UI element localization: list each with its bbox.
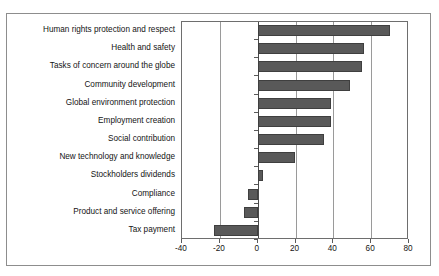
category-label: Tax payment	[129, 221, 175, 239]
category-label: Compliance	[132, 185, 175, 203]
value-tick-label: 20	[290, 244, 299, 253]
category-axis-labels: Human rights protection and respectHealt…	[7, 21, 179, 239]
value-tick	[257, 239, 258, 243]
value-tick-label: -40	[175, 244, 187, 253]
bar-row	[182, 40, 407, 58]
bar-row	[182, 22, 407, 40]
category-label: New technology and knowledge	[59, 148, 175, 166]
bar-row	[182, 222, 407, 240]
value-tick	[295, 239, 296, 243]
category-label: Community development	[84, 76, 175, 94]
category-label: Employment creation	[98, 112, 175, 130]
category-label: Product and service offering	[73, 203, 175, 221]
bar[interactable]	[258, 170, 264, 181]
bar[interactable]	[258, 80, 351, 91]
plot-area	[181, 21, 408, 239]
bar-row	[182, 186, 407, 204]
bar[interactable]	[258, 25, 390, 36]
category-label: Global environment protection	[66, 94, 175, 112]
bar[interactable]	[258, 116, 332, 127]
bar-rows	[182, 22, 407, 238]
bar[interactable]	[258, 43, 364, 54]
bar[interactable]	[214, 225, 258, 236]
value-tick	[370, 239, 371, 243]
category-label: Human rights protection and respect	[43, 21, 175, 39]
bar[interactable]	[258, 134, 324, 145]
caption-strip	[0, 0, 439, 11]
category-label: Tasks of concern around the globe	[50, 57, 175, 75]
gridline	[409, 22, 410, 238]
value-axis: -40-20020406080	[181, 239, 408, 261]
value-tick-label: 0	[254, 244, 259, 253]
value-tick-label: 40	[328, 244, 337, 253]
category-label: Health and safety	[111, 39, 175, 57]
bar[interactable]	[258, 61, 362, 72]
value-tick	[181, 239, 182, 243]
value-tick-label: 80	[403, 244, 412, 253]
bar[interactable]	[258, 152, 296, 163]
bar[interactable]	[258, 98, 332, 109]
bar-row	[182, 113, 407, 131]
bar-row	[182, 149, 407, 167]
bar-row	[182, 204, 407, 222]
chart-figure: Human rights protection and respectHealt…	[0, 0, 439, 276]
bar-row	[182, 77, 407, 95]
category-label: Stockholders dividends	[91, 166, 175, 184]
bar[interactable]	[248, 189, 257, 200]
bar[interactable]	[244, 207, 257, 218]
value-tick	[408, 239, 409, 243]
bar-row	[182, 58, 407, 76]
bar-row	[182, 95, 407, 113]
bar-row	[182, 131, 407, 149]
value-tick	[219, 239, 220, 243]
value-tick	[332, 239, 333, 243]
category-label: Social contribution	[108, 130, 175, 148]
bar-row	[182, 167, 407, 185]
value-tick-label: 60	[366, 244, 375, 253]
value-tick-label: -20	[213, 244, 225, 253]
